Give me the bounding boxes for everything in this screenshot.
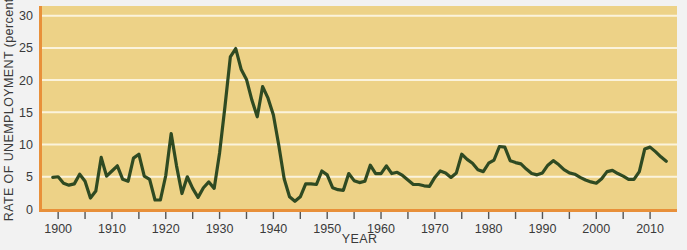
x-axis-tick-label: 1990 xyxy=(529,222,557,236)
y-axis-tick-label: 20 xyxy=(19,74,33,88)
x-axis-tick-label: 1950 xyxy=(313,222,341,236)
x-axis-title: YEAR xyxy=(342,232,378,246)
y-axis-tick-label: 10 xyxy=(19,138,33,152)
x-axis-tick-label: 2010 xyxy=(636,222,664,236)
y-axis-tick-label: 0 xyxy=(26,203,33,217)
y-axis-tick-label: 15 xyxy=(19,106,33,120)
x-axis-tick-label: 1940 xyxy=(259,222,287,236)
y-axis-tick-labels: 051015202530 xyxy=(19,9,33,216)
x-axis-tick-label: 1980 xyxy=(475,222,503,236)
y-axis-title: RATE OF UNEMPLOYMENT (percent) xyxy=(2,0,16,221)
x-axis-tick-label: 2000 xyxy=(582,222,610,236)
x-axis-tick-label: 1900 xyxy=(44,222,72,236)
x-axis-tick-label: 1970 xyxy=(421,222,449,236)
x-axis-tick-label: 1930 xyxy=(206,222,234,236)
y-axis-tick-label: 30 xyxy=(19,9,33,23)
x-axis-ticks xyxy=(58,212,650,219)
x-axis-tick-label: 1910 xyxy=(98,222,126,236)
unemployment-rate-chart-figure: 051015202530 190019101920193019401950196… xyxy=(0,0,687,250)
y-axis-tick-label: 5 xyxy=(26,170,33,184)
chart-canvas: 051015202530 190019101920193019401950196… xyxy=(0,0,687,250)
x-axis-tick-label: 1920 xyxy=(152,222,180,236)
y-axis-tick-label: 25 xyxy=(19,41,33,55)
